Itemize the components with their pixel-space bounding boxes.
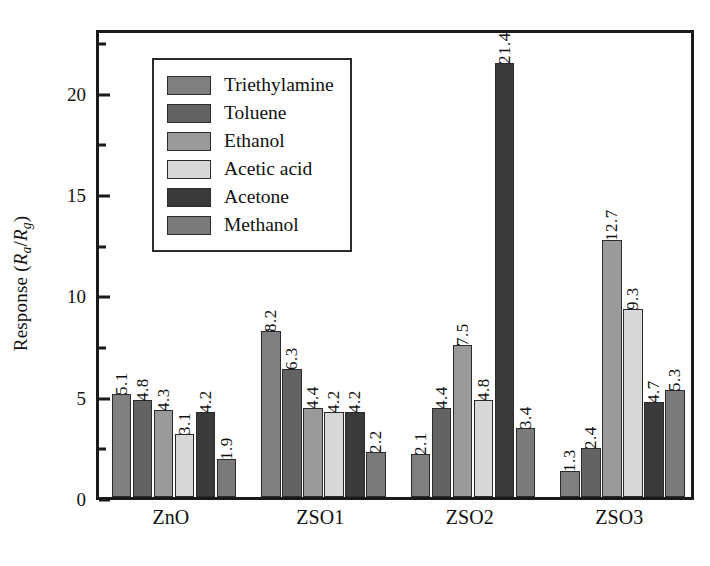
bar-slot: 2.4 — [581, 33, 601, 497]
bar[interactable]: 2.4 — [581, 448, 601, 497]
y-tick-major — [99, 499, 110, 502]
bar[interactable]: 4.3 — [154, 410, 174, 497]
bar[interactable]: 4.8 — [133, 400, 153, 497]
bar[interactable]: 4.4 — [432, 408, 452, 497]
bar[interactable]: 4.7 — [644, 402, 664, 497]
y-axis-title-ra-sub: a — [19, 246, 34, 253]
bar[interactable]: 12.7 — [602, 240, 622, 497]
bar[interactable]: 4.4 — [303, 408, 323, 497]
bar[interactable]: 5.1 — [112, 394, 132, 497]
x-category-label-zno: ZnO — [152, 506, 189, 529]
bar-slot: 2.1 — [411, 33, 431, 497]
bar-slot: 2.2 — [366, 33, 386, 497]
bar[interactable]: 5.3 — [665, 390, 685, 497]
y-axis-tick-labels: 05101520 — [40, 0, 90, 566]
bar-chart-figure: Response (Ra/Rg) 05101520 5.14.84.33.14.… — [0, 0, 710, 566]
y-tick-label: 20 — [67, 84, 86, 106]
legend-label: Toluene — [224, 103, 287, 123]
legend-swatch — [167, 160, 211, 179]
x-axis-category-labels: ZnOZSO1ZSO2ZSO3 — [96, 506, 694, 546]
bar[interactable]: 3.1 — [175, 434, 195, 497]
y-axis-title-ra: R — [11, 253, 32, 265]
bar[interactable]: 9.3 — [623, 309, 643, 497]
x-category-label-zso3: ZSO3 — [595, 506, 643, 529]
y-axis-title-slash: / — [11, 241, 32, 246]
y-tick-label: 10 — [67, 286, 86, 308]
legend-swatch — [167, 104, 211, 123]
bar-group-zso3: 1.32.412.79.34.75.3 — [548, 33, 698, 497]
x-category-label-zso1: ZSO1 — [296, 506, 344, 529]
bar[interactable]: 1.9 — [217, 459, 237, 497]
legend: TriethylamineTolueneEthanolAcetic acidAc… — [152, 58, 352, 252]
legend-item-toluene[interactable]: Toluene — [167, 99, 334, 127]
bar[interactable]: 7.5 — [453, 345, 473, 497]
bar[interactable]: 1.3 — [560, 471, 580, 497]
y-axis-title-rg-sub: g — [19, 222, 34, 229]
y-tick-label: 15 — [67, 185, 86, 207]
y-axis-title: Response (Ra/Rg) — [6, 0, 40, 566]
bar[interactable]: 6.3 — [282, 369, 302, 497]
legend-label: Triethylamine — [224, 75, 334, 95]
bar[interactable]: 2.2 — [366, 452, 386, 497]
x-category-label-zso2: ZSO2 — [446, 506, 494, 529]
bar-slot: 5.3 — [665, 33, 685, 497]
y-tick-label: 5 — [77, 388, 87, 410]
legend-item-triethylamine[interactable]: Triethylamine — [167, 71, 334, 99]
legend-item-acetone[interactable]: Acetone — [167, 183, 334, 211]
bar-group-zso2: 2.14.47.54.821.43.4 — [398, 33, 548, 497]
bar-slot: 12.7 — [602, 33, 622, 497]
legend-label: Ethanol — [224, 131, 285, 151]
bar-slot: 4.4 — [432, 33, 452, 497]
legend-label: Methanol — [224, 215, 299, 235]
legend-label: Acetone — [224, 187, 289, 207]
legend-item-acetic-acid[interactable]: Acetic acid — [167, 155, 334, 183]
legend-swatch — [167, 216, 211, 235]
y-tick-label: 0 — [77, 489, 87, 511]
y-axis-title-suffix: ) — [11, 215, 32, 222]
bar-slot: 4.8 — [133, 33, 153, 497]
bar-slot: 7.5 — [453, 33, 473, 497]
bar[interactable]: 2.1 — [411, 454, 431, 497]
bar[interactable]: 4.2 — [196, 412, 216, 497]
bar-slot: 9.3 — [623, 33, 643, 497]
bar[interactable]: 8.2 — [261, 331, 281, 497]
legend-swatch — [167, 76, 211, 95]
legend-item-ethanol[interactable]: Ethanol — [167, 127, 334, 155]
bar[interactable]: 21.4 — [495, 63, 515, 497]
bar-slot: 3.4 — [516, 33, 536, 497]
y-axis-title-rg: R — [11, 229, 32, 241]
bar-slot: 5.1 — [112, 33, 132, 497]
legend-swatch — [167, 188, 211, 207]
legend-item-methanol[interactable]: Methanol — [167, 211, 334, 239]
bar[interactable]: 4.8 — [474, 400, 494, 497]
bar-slot: 1.3 — [560, 33, 580, 497]
bar[interactable]: 3.4 — [516, 428, 536, 497]
y-axis-title-prefix: Response ( — [11, 265, 32, 351]
legend-label: Acetic acid — [224, 159, 312, 179]
bar-slot: 4.7 — [644, 33, 664, 497]
bar[interactable]: 4.2 — [324, 412, 344, 497]
bar[interactable]: 4.2 — [345, 412, 365, 497]
bar-slot: 21.4 — [495, 33, 515, 497]
bar-slot: 4.8 — [474, 33, 494, 497]
legend-swatch — [167, 132, 211, 151]
